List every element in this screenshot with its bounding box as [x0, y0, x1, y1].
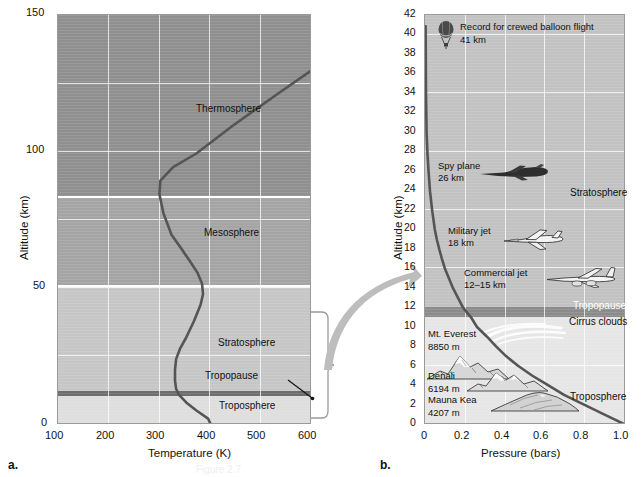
xtick-b: 0.4 — [494, 430, 509, 442]
annotation-militaryjet-line2: 18 km — [448, 238, 474, 248]
annotation-spyplane-line2: 26 km — [438, 173, 464, 183]
annotation-balloon-line1: Record for crewed balloon flight — [460, 22, 594, 32]
xtick-b: 0 — [421, 430, 427, 442]
ytick-b: 30 — [404, 125, 416, 136]
ytick-b: 32 — [404, 105, 416, 116]
ytick-b: 18 — [404, 242, 416, 253]
ytick-b: 14 — [404, 281, 416, 292]
ytick-b: 28 — [404, 144, 416, 155]
figure-caption: Figure 2.7 — [196, 464, 241, 475]
ytick-b: 0 — [410, 417, 416, 428]
annotation-commercialjet-line2: 12–15 km — [464, 280, 506, 290]
annotation-everest-line1: Mt. Everest — [428, 329, 476, 339]
xtick-a: 100 — [45, 430, 63, 442]
spy-plane-icon — [478, 164, 550, 182]
ytick-a: 0 — [41, 417, 47, 429]
panel-label-a: a. — [8, 459, 18, 472]
xtick-a: 200 — [96, 430, 114, 442]
ytick-b: 8 — [410, 339, 416, 350]
xtick-a: 300 — [146, 430, 164, 442]
ytick-b: 38 — [404, 47, 416, 58]
zone-label-troposphere: Troposphere — [219, 401, 275, 412]
panel-label-b: b. — [380, 459, 391, 472]
ytick-b: 10 — [404, 320, 416, 331]
ytick-b: 6 — [410, 359, 416, 370]
ytick-b: 4 — [410, 378, 416, 389]
annotation-denali-line2: 6194 m — [428, 384, 460, 394]
annotation-commercialjet-line1: Commercial jet — [464, 268, 527, 278]
zoom-arrow-icon — [318, 262, 422, 374]
ytick-b: 36 — [404, 66, 416, 77]
ytick-b: 2 — [410, 398, 416, 409]
annotation-maunakea-line2: 4207 m — [428, 408, 460, 418]
ytick-b: 42 — [404, 8, 416, 19]
annotation-maunakea-line1: Mauna Kea — [428, 395, 477, 405]
xtick-a: 400 — [197, 430, 215, 442]
zone-label-tropopause: Tropopause — [205, 371, 258, 382]
zone-label-tropopause-b: Tropopause — [573, 301, 626, 312]
ytick-a: 100 — [26, 144, 44, 156]
annotation-balloon-line2: 41 km — [460, 35, 486, 45]
commercial-jet-icon — [544, 266, 622, 290]
xaxis-label-a: Temperature (K) — [148, 447, 231, 459]
ytick-b: 40 — [404, 27, 416, 38]
xtick-a: 500 — [247, 430, 265, 442]
xtick-b: 0.8 — [573, 430, 588, 442]
yaxis-label-a: Altitude (km) — [18, 195, 30, 260]
zone-label-cirrus-clouds: Cirrus clouds — [569, 317, 627, 328]
ytick-b: 26 — [404, 164, 416, 175]
yaxis-label-b: Altitude (km) — [392, 195, 404, 260]
annotation-militaryjet-line1: Military jet — [448, 226, 491, 236]
ytick-b: 20 — [404, 222, 416, 233]
zone-label-thermosphere: Thermosphere — [196, 104, 261, 115]
ytick-b: 22 — [404, 203, 416, 214]
military-jet-icon — [500, 228, 568, 252]
mountain-maunakea-icon — [490, 388, 580, 412]
temperature-curve — [58, 15, 311, 424]
ytick-a: 150 — [26, 7, 44, 19]
balloon-icon — [436, 20, 456, 50]
annotation-everest-line2: 8850 m — [428, 342, 460, 352]
annotation-spyplane-line1: Spy plane — [438, 161, 480, 171]
xtick-b: 1.0 — [613, 430, 628, 442]
zone-label-troposphere-b: Troposphere — [570, 392, 626, 403]
zone-label-mesosphere: Mesosphere — [204, 228, 259, 239]
ytick-b: 16 — [404, 261, 416, 272]
temperature-plot-area — [57, 14, 311, 424]
ytick-b: 34 — [404, 86, 416, 97]
atmosphere-figure: Thermosphere Mesosphere Stratosphere Tro… — [0, 0, 644, 477]
xtick-b: 0.6 — [533, 430, 548, 442]
annotation-denali-line1: Denali — [428, 371, 455, 381]
ytick-b: 12 — [404, 300, 416, 311]
zone-label-stratosphere: Stratosphere — [218, 338, 275, 349]
xtick-b: 0.2 — [454, 430, 469, 442]
ytick-a: 50 — [33, 280, 45, 292]
zone-label-stratosphere-b: Stratosphere — [570, 188, 627, 199]
xaxis-label-b: Pressure (bars) — [481, 447, 560, 459]
ytick-b: 24 — [404, 183, 416, 194]
